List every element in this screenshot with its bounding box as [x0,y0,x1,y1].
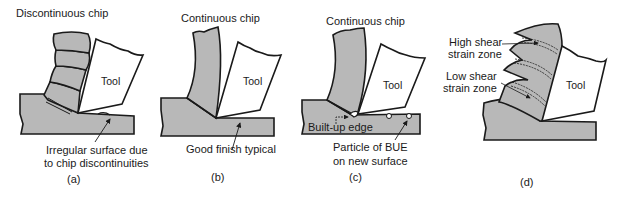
panel-c-title: Continuous chip [326,16,405,27]
continuous-chip-c [327,28,366,115]
bue-particle [387,114,392,119]
panel-a-tool-label: Tool [101,76,120,87]
panel-d-low-zone-line2: strain zone [443,83,497,94]
panel-a-title: Discontinuous chip [16,8,108,19]
bue-particle [407,114,412,119]
panel-c-caption: (c) [349,172,362,183]
panel-a-caption: (a) [67,174,80,185]
panel-c-annotation-line1: Particle of BUE [333,142,408,153]
panel-b-tool-label: Tool [243,76,262,87]
panel-d-high-zone-line2: strain zone [448,49,502,60]
panel-b-caption: (b) [211,172,224,183]
panel-a-annotation-line1: Irregular surface due [46,145,148,156]
chip-segment-4 [53,32,90,53]
panel-b-annotation: Good finish typical [186,144,276,155]
panel-a-annotation-line2: to chip discontinuities [44,158,149,169]
panel-d-high-zone-line1: High shear [449,37,502,48]
panel-b-title: Continuous chip [181,13,260,24]
panel-d-low-zone-line1: Low shear [446,71,497,82]
panel-c-bue-label: Built-up edge [308,122,373,133]
panel-d-tool-label: Tool [566,80,585,91]
panel-a-discontinuous-chip [20,32,143,142]
panel-b-continuous-chip [161,27,281,150]
panel-c-tool-label: Tool [383,80,402,91]
panel-d-caption: (d) [520,177,533,188]
panel-c-annotation-line2: on new surface [333,156,408,167]
